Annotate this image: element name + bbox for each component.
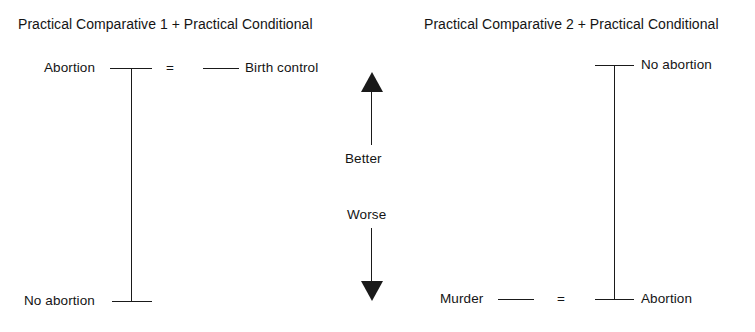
right-bottom-left-label: Murder (440, 291, 483, 307)
left-top-equals-sign: = (166, 60, 174, 76)
right-bottom-tick-bar (595, 299, 634, 300)
worse-label: Worse (347, 207, 386, 223)
left-panel-title: Practical Comparative 1 + Practical Cond… (18, 15, 313, 33)
right-top-right-label: No abortion (641, 57, 712, 73)
left-bottom-left-label: No abortion (24, 293, 95, 309)
arrow-up-icon (361, 72, 383, 92)
right-bottom-right-label: Abortion (641, 291, 692, 307)
right-panel-title: Practical Comparative 2 + Practical Cond… (424, 15, 719, 33)
right-bottom-equals-sign: = (557, 291, 565, 307)
left-bottom-tick-bar (112, 301, 152, 302)
figure-canvas: Practical Comparative 1 + Practical Cond… (0, 0, 755, 332)
right-scale-vertical-line (614, 65, 615, 300)
arrow-down-icon (361, 281, 383, 301)
down-arrow-stem (371, 228, 372, 283)
left-scale-vertical-line (131, 68, 132, 302)
up-arrow-stem (371, 90, 372, 145)
left-top-left-label: Abortion (44, 60, 95, 76)
right-bottom-left-connector-line (498, 299, 534, 300)
left-top-right-label: Birth control (245, 60, 318, 76)
left-top-right-connector-line (203, 68, 239, 69)
better-label: Better (345, 151, 382, 167)
